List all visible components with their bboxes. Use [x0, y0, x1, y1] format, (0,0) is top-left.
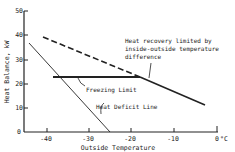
- x-tick-labels: -40 -30 -20 -10 0: [40, 135, 219, 143]
- x-tick-m40: -40: [40, 135, 52, 143]
- y-tick-40: 40: [15, 31, 23, 39]
- x-tick-0: 0: [215, 135, 219, 143]
- y-tick-50: 50: [15, 7, 23, 15]
- annotations: Heat recovery limited by inside-outside …: [86, 37, 219, 110]
- x-ticks: [47, 126, 217, 132]
- series-heat-recovery-solid: [140, 77, 205, 105]
- x-unit-label: °C: [220, 135, 228, 143]
- x-tick-m30: -30: [82, 135, 94, 143]
- y-tick-20: 20: [15, 80, 23, 88]
- leader-freezing-limit: [78, 78, 85, 86]
- annotation-line-1: Heat recovery limited by: [125, 37, 212, 45]
- leader-heat-recovery: [149, 63, 151, 78]
- y-tick-labels: 50 40 30 20 10 0: [15, 7, 23, 136]
- heat-balance-chart: 50 40 30 20 10 0 -40 -30 -20 -10 0 °C Ou…: [0, 0, 235, 152]
- x-tick-m10: -10: [167, 135, 179, 143]
- annotation-heat-deficit: Heat Deficit Line: [96, 103, 158, 110]
- y-tick-10: 10: [15, 104, 23, 112]
- y-tick-30: 30: [15, 56, 23, 64]
- y-tick-0: 0: [17, 128, 21, 136]
- annotation-freezing-limit: Freezing Limit: [86, 86, 137, 94]
- annotation-line-2: inside-outside temperature: [125, 45, 219, 53]
- x-axis-title: Outside Temperature: [81, 144, 155, 152]
- annotation-line-3: difference: [125, 53, 162, 60]
- y-axis-title: Heat Balance, kW: [3, 41, 11, 104]
- x-tick-m20: -20: [124, 135, 136, 143]
